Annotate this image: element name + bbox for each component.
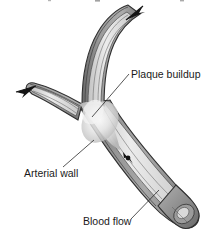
label-arterial-wall: Arterial wall [24,167,78,179]
label-plaque-buildup: Plaque buildup [131,68,201,80]
artery-plaque-diagram: Plaque buildup Arterial wall Blood flow [0,0,208,248]
label-blood-flow: Blood flow [83,215,132,227]
